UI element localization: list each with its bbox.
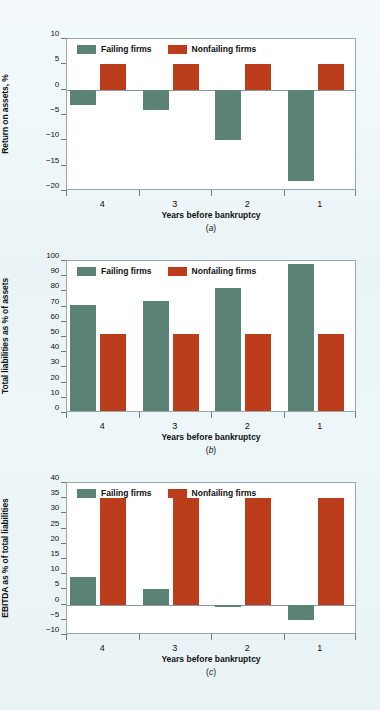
bar-nonfailing-1	[318, 498, 344, 604]
bar-nonfailing-4	[100, 498, 126, 604]
bar-nonfailing-1	[318, 64, 344, 89]
legend-swatch-nonfailing-icon	[168, 489, 187, 498]
x-tick-mark-icon	[355, 412, 356, 418]
legend-swatch-nonfailing-icon	[168, 45, 187, 54]
legend-item-failing-b: Failing firms	[77, 266, 152, 276]
x-tick-mark-icon	[284, 412, 285, 418]
x-tick-mark-icon	[211, 634, 212, 640]
legend-label-nonfailing-c: Nonfailing firms	[192, 488, 257, 498]
x-axis-label-c: Years before bankruptcy	[66, 654, 356, 664]
bars-b	[67, 261, 355, 411]
figure-panels: Return on assets, % 1050−5−10−15−20 Fail…	[0, 0, 380, 710]
plot-area-b: Failing firms Nonfailing firms	[66, 260, 356, 412]
bar-failing-1	[288, 264, 314, 411]
chart-panel-c: EBITDA as % of total liabilities 4035302…	[0, 462, 380, 702]
legend-item-failing-c: Failing firms	[77, 488, 152, 498]
x-tick-mark-icon	[66, 190, 67, 196]
bar-failing-2	[215, 605, 241, 607]
x-tick-label-4: 4	[100, 421, 105, 431]
bar-failing-3	[143, 90, 169, 110]
x-tick-label-1: 1	[317, 421, 322, 431]
x-tick-label-2: 2	[245, 643, 250, 653]
y-axis-b: 1009080706050403020100	[0, 260, 66, 412]
bar-failing-1	[288, 605, 314, 620]
bar-nonfailing-3	[173, 64, 199, 89]
x-tick-label-3: 3	[172, 421, 177, 431]
bar-nonfailing-4	[100, 334, 126, 411]
legend-item-nonfailing-c: Nonfailing firms	[168, 488, 257, 498]
bar-failing-4	[70, 577, 96, 604]
x-tick-label-1: 1	[317, 643, 322, 653]
legend-a: Failing firms Nonfailing firms	[77, 44, 256, 54]
bar-nonfailing-3	[173, 498, 199, 604]
bar-nonfailing-4	[100, 64, 126, 89]
legend-c: Failing firms Nonfailing firms	[77, 488, 256, 498]
legend-swatch-failing-icon	[77, 489, 96, 498]
bar-failing-2	[215, 288, 241, 411]
bars-c	[67, 483, 355, 633]
x-tick-label-3: 3	[172, 199, 177, 209]
x-tick-label-4: 4	[100, 199, 105, 209]
legend-label-failing-c: Failing firms	[101, 488, 152, 498]
plot-area-a: Failing firms Nonfailing firms	[66, 38, 356, 190]
x-tick-mark-icon	[211, 412, 212, 418]
legend-swatch-nonfailing-icon	[168, 267, 187, 276]
bar-nonfailing-2	[245, 498, 271, 604]
x-tick-mark-icon	[66, 634, 67, 640]
panel-caption-letter-a: a	[209, 223, 214, 233]
legend-label-nonfailing-b: Nonfailing firms	[192, 266, 257, 276]
legend-swatch-failing-icon	[77, 45, 96, 54]
bar-failing-3	[143, 589, 169, 604]
bar-failing-3	[143, 301, 169, 411]
x-tick-label-2: 2	[245, 421, 250, 431]
legend-item-nonfailing-b: Nonfailing firms	[168, 266, 257, 276]
bar-failing-4	[70, 90, 96, 105]
plot-area-c: Failing firms Nonfailing firms	[66, 482, 356, 634]
legend-label-nonfailing-a: Nonfailing firms	[192, 44, 257, 54]
bar-failing-1	[288, 90, 314, 181]
chart-panel-b: Total liabilities as % of assets 1009080…	[0, 240, 380, 462]
x-axis-label-a: Years before bankruptcy	[66, 210, 356, 220]
x-tick-mark-icon	[355, 190, 356, 196]
chart-panel-a: Return on assets, % 1050−5−10−15−20 Fail…	[0, 18, 380, 240]
bars-a	[67, 39, 355, 189]
x-tick-mark-icon	[66, 412, 67, 418]
x-tick-mark-icon	[139, 190, 140, 196]
legend-swatch-failing-icon	[77, 267, 96, 276]
panel-caption-a: (a)	[66, 223, 356, 233]
x-tick-label-2: 2	[245, 199, 250, 209]
bar-failing-2	[215, 90, 241, 141]
x-axis-label-b: Years before bankruptcy	[66, 432, 356, 442]
x-tick-mark-icon	[355, 634, 356, 640]
x-tick-mark-icon	[139, 412, 140, 418]
x-tick-label-3: 3	[172, 643, 177, 653]
legend-item-nonfailing-a: Nonfailing firms	[168, 44, 257, 54]
bar-nonfailing-1	[318, 334, 344, 411]
bar-nonfailing-2	[245, 334, 271, 411]
legend-label-failing-a: Failing firms	[101, 44, 152, 54]
y-axis-a: 1050−5−10−15−20	[0, 38, 66, 190]
x-tick-label-4: 4	[100, 643, 105, 653]
bar-nonfailing-2	[245, 64, 271, 89]
x-tick-mark-icon	[284, 634, 285, 640]
x-tick-mark-icon	[139, 634, 140, 640]
panel-caption-c: (c)	[66, 667, 356, 677]
y-axis-c: 4035302520151050−5−10	[0, 482, 66, 634]
bar-nonfailing-3	[173, 334, 199, 411]
panel-caption-b: (b)	[66, 445, 356, 455]
x-tick-mark-icon	[211, 190, 212, 196]
legend-item-failing-a: Failing firms	[77, 44, 152, 54]
legend-label-failing-b: Failing firms	[101, 266, 152, 276]
x-tick-mark-icon	[284, 190, 285, 196]
legend-b: Failing firms Nonfailing firms	[77, 266, 256, 276]
panel-caption-letter-c: c	[209, 667, 213, 677]
panel-caption-letter-b: b	[209, 445, 214, 455]
x-tick-label-1: 1	[317, 199, 322, 209]
bar-failing-4	[70, 305, 96, 411]
